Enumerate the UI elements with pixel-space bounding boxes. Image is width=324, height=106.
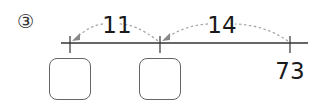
jump-label-14: 14 xyxy=(207,12,236,38)
arrowhead-left-icon xyxy=(162,33,170,41)
jump-label-11: 11 xyxy=(102,12,131,38)
tick-value-73: 73 xyxy=(275,58,304,84)
problem-number: ③ xyxy=(17,10,34,32)
answer-box-tick-0[interactable] xyxy=(49,58,91,100)
arrowhead-left-icon xyxy=(72,33,80,41)
answer-box-tick-1[interactable] xyxy=(139,58,181,100)
